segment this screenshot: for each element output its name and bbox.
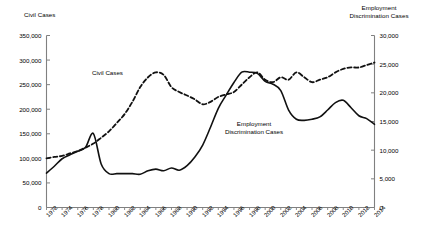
- right-axis-tick-label: 5,000: [380, 175, 420, 182]
- left-axis-tick-label: 300,000: [2, 57, 42, 64]
- employment-discrimination-line: [47, 71, 375, 174]
- right-axis-tick-label: 25,000: [380, 61, 420, 68]
- left-axis-tick-label: 100,000: [2, 155, 42, 162]
- right-axis-tick-label: 20,000: [380, 89, 420, 96]
- right-axis-tick-label: 30,000: [380, 32, 420, 39]
- chart-figure: Civil Cases Employment Discrimination Ca…: [0, 0, 421, 247]
- right-axis-tick-label: 10,000: [380, 147, 420, 154]
- left-axis-tick-label: 250,000: [2, 81, 42, 88]
- right-axis-tick-label: 15,000: [380, 118, 420, 125]
- left-axis-tick-label: 0: [2, 204, 42, 211]
- civil-cases-line: [47, 63, 375, 159]
- left-axis-tick-label: 50,000: [2, 179, 42, 186]
- left-axis-tick-label: 200,000: [2, 106, 42, 113]
- left-axis-tick-label: 350,000: [2, 32, 42, 39]
- left-axis-tick-label: 150,000: [2, 130, 42, 137]
